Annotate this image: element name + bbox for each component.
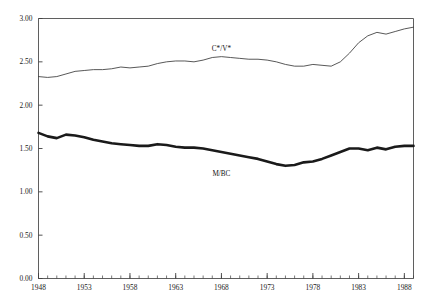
y-tick-label: 2.50 [20, 57, 33, 66]
x-tick-label: 1978 [305, 283, 320, 292]
x-tick-label: 1988 [397, 283, 412, 292]
series-label: M/BC [212, 170, 230, 178]
x-tick-label: 1983 [351, 283, 366, 292]
y-tick-label: 2.00 [20, 101, 33, 110]
x-tick-label: 1963 [168, 283, 183, 292]
x-tick-label: 1953 [77, 283, 92, 292]
x-axis-labels: 194819531958196319681973197819831988 [31, 283, 412, 292]
x-tick-label: 1973 [260, 283, 275, 292]
x-tick-label: 1968 [214, 283, 229, 292]
y-tick-label: 1.00 [20, 187, 33, 196]
series-line [39, 133, 414, 166]
line-chart: 0.000.501.001.502.002.503.00 19481953195… [0, 0, 442, 306]
x-tick-label: 1958 [123, 283, 138, 292]
chart-container: 0.000.501.001.502.002.503.00 19481953195… [0, 0, 442, 306]
y-axis-labels: 0.000.501.001.502.002.503.00 [20, 14, 33, 283]
y-tick-label: 0.50 [20, 231, 33, 240]
y-tick-label: 3.00 [20, 14, 33, 23]
x-tick-label: 1948 [31, 283, 46, 292]
series-label: C*/V* [212, 45, 232, 53]
series-annotations: C*/V*M/BC [212, 45, 232, 179]
y-axis-ticks [39, 19, 43, 279]
y-tick-label: 1.50 [20, 144, 33, 153]
